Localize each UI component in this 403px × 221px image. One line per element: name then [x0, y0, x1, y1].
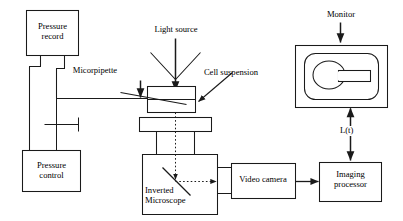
micropipette-label: Micorpipette [55, 66, 135, 76]
tube-record-to-control [30, 56, 41, 151]
pressure-control-label: Pressure control [22, 161, 81, 180]
video-camera-label: Video camera [231, 175, 295, 185]
pressure-record-label: Pressure record [26, 22, 79, 41]
monitor-label: Monitor [314, 10, 368, 20]
monitor-pipette-rect [339, 71, 371, 82]
signal-label: L(t) [340, 126, 370, 136]
cell-suspension-label: Cell suspension [190, 68, 272, 78]
tube-record-to-pipette [57, 56, 148, 99]
diagram-canvas: Pressure record Pressure control Micorpi… [0, 0, 403, 221]
inverted-microscope-label: Inverted Microscope [145, 186, 215, 205]
imaging-processor-label: Imaging processor [320, 170, 381, 189]
light-source-label: Light source [140, 25, 212, 35]
